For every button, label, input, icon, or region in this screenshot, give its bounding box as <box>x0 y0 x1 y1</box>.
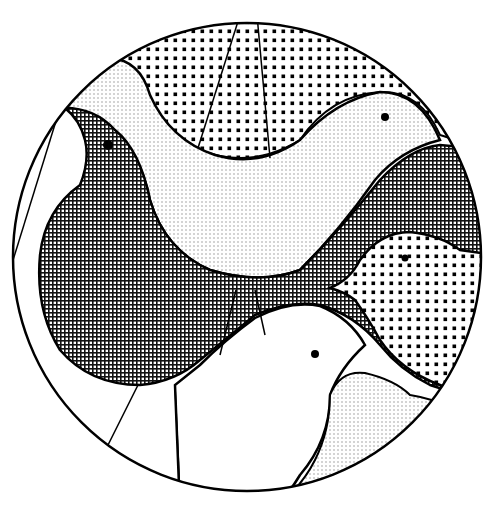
eye-light-bird <box>381 113 389 121</box>
bird-circle-illustration <box>0 0 495 511</box>
eye-white-bird <box>311 350 319 358</box>
eye-dark-bird <box>103 140 113 150</box>
illustration-svg <box>0 0 495 511</box>
eye-small-bird <box>402 255 409 262</box>
